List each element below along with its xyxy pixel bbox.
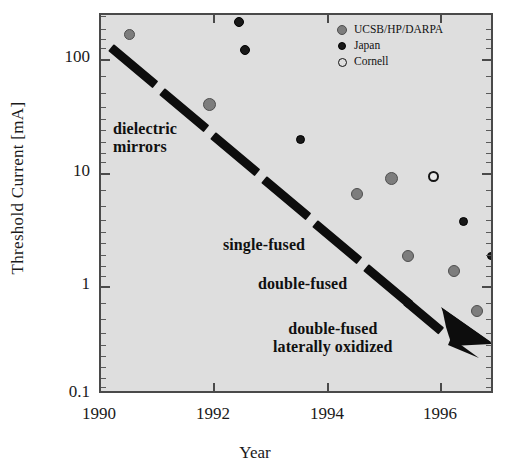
y-axis-tick-minor-right xyxy=(486,130,491,131)
y-axis-tick-minor-right xyxy=(486,119,491,120)
data-point-japan xyxy=(487,252,491,260)
y-axis-tick-minor xyxy=(101,255,106,256)
y-axis-tick-minor xyxy=(101,153,106,154)
y-axis-tick-minor xyxy=(101,319,106,320)
data-point-ucsb xyxy=(385,172,398,185)
y-axis-tick-minor xyxy=(101,93,106,94)
y-axis-tick-minor-right xyxy=(486,220,491,221)
x-axis-tick-1992 xyxy=(213,383,215,391)
trend-dash xyxy=(210,132,260,176)
y-axis-tick-minor-right xyxy=(486,232,491,233)
y-axis-tick-minor xyxy=(101,266,106,267)
y-tick-label-0-1: 0.1 xyxy=(10,382,90,402)
y-axis-tick-minor xyxy=(101,29,106,30)
y-axis-tick-minor-right xyxy=(486,356,491,357)
y-axis-tick-minor xyxy=(101,378,106,379)
x-axis-tick-1994 xyxy=(327,383,329,391)
y-axis-tick-minor xyxy=(101,333,106,334)
legend-entry-cornell: Cornell xyxy=(337,54,443,70)
y-axis-tick-minor-right xyxy=(486,206,491,207)
y-axis-tick-minor xyxy=(101,220,106,221)
y-axis-tick-minor xyxy=(101,206,106,207)
x-tick-label-1990: 1990 xyxy=(59,404,139,424)
y-axis-tick-minor-right xyxy=(486,266,491,267)
data-point-ucsb xyxy=(448,265,460,277)
y-axis-tick-minor-right xyxy=(486,378,491,379)
trend-dash xyxy=(261,176,311,220)
y-axis-tick-minor xyxy=(101,243,106,244)
legend-marker-open-circle-icon xyxy=(338,58,347,67)
y-axis-tick-major xyxy=(101,173,110,175)
legend-entry-japan: Japan xyxy=(337,38,443,54)
y-axis-tick-minor-right xyxy=(486,303,491,304)
y-axis-tick-major xyxy=(101,286,110,288)
data-point-japan xyxy=(459,217,468,226)
y-axis-tick-minor xyxy=(101,345,106,346)
y-axis-tick-minor-right xyxy=(486,153,491,154)
y-axis-tick-minor xyxy=(101,387,106,388)
x-axis-tick-1996 xyxy=(440,383,442,391)
y-axis-tick-minor xyxy=(101,76,106,77)
y-axis-tick-minor-right xyxy=(486,29,491,30)
y-axis-tick-minor-right xyxy=(486,387,491,388)
y-axis-tick-minor-right xyxy=(486,255,491,256)
y-axis-tick-minor-right xyxy=(486,48,491,49)
x-tick-label-1994: 1994 xyxy=(287,404,367,424)
annotation-dielectric-mirrors: dielectric mirrors xyxy=(113,120,177,156)
y-tick-label-1: 1 xyxy=(10,274,90,294)
annotation-single-fused: single-fused xyxy=(223,236,305,254)
plot-frame: dielectric mirrors single-fused double-f… xyxy=(99,13,493,393)
y-axis-tick-minor xyxy=(101,16,106,17)
data-point-ucsb xyxy=(402,250,414,262)
y-axis-tick-minor xyxy=(101,107,106,108)
y-axis-tick-major xyxy=(101,59,110,61)
data-point-japan xyxy=(240,45,250,55)
trend-dash xyxy=(403,298,444,334)
plot-area: dielectric mirrors single-fused double-f… xyxy=(101,15,491,391)
y-axis-tick-minor-right xyxy=(486,76,491,77)
y-axis-tick-minor-right xyxy=(486,39,491,40)
x-tick-label-1992: 1992 xyxy=(173,404,253,424)
y-axis-tick-minor-right xyxy=(486,367,491,368)
x-axis-tick-top-1996 xyxy=(440,15,442,23)
y-axis-tick-minor xyxy=(101,162,106,163)
y-axis-tick-minor xyxy=(101,130,106,131)
data-point-ucsb xyxy=(124,29,135,40)
y-axis-tick-major-right xyxy=(482,286,491,288)
y-axis-tick-minor-right xyxy=(486,142,491,143)
y-axis-tick-minor-right xyxy=(486,243,491,244)
annotation-double-fused-laterally-oxidized: double-fused laterally oxidized xyxy=(273,320,393,356)
legend-label-cornell: Cornell xyxy=(354,53,389,71)
y-axis-tick-minor-right xyxy=(486,162,491,163)
data-point-ucsb xyxy=(351,188,363,200)
x-tick-label-1996: 1996 xyxy=(400,404,480,424)
y-axis-tick-minor-right xyxy=(486,319,491,320)
data-point-japan xyxy=(296,135,305,144)
figure-threshold-current-vs-year: Threshold Current [mA] 100 10 1 0.1 1990… xyxy=(0,0,510,472)
y-tick-label-10: 10 xyxy=(10,161,90,181)
y-axis-tick-major-right xyxy=(482,59,491,61)
y-axis-tick-minor-right xyxy=(486,107,491,108)
legend: UCSB/HP/DARPA Japan Cornell xyxy=(337,22,443,70)
y-axis-tick-minor xyxy=(101,276,106,277)
y-axis-tick-major-right xyxy=(482,173,491,175)
y-axis-tick-minor xyxy=(101,356,106,357)
y-axis-tick-minor-right xyxy=(486,333,491,334)
data-point-cornell xyxy=(428,171,439,182)
y-axis-tick-minor xyxy=(101,39,106,40)
data-point-japan xyxy=(234,17,244,27)
x-axis-tick-top-1992 xyxy=(213,15,215,23)
data-point-ucsb xyxy=(203,98,216,111)
x-axis-label: Year xyxy=(0,443,510,463)
y-axis-tick-minor-right xyxy=(486,93,491,94)
y-axis-tick-minor xyxy=(101,367,106,368)
y-axis-tick-minor xyxy=(101,119,106,120)
y-tick-label-100: 100 xyxy=(10,47,90,67)
y-axis-tick-minor xyxy=(101,48,106,49)
y-axis-tick-minor xyxy=(101,142,106,143)
y-axis-tick-minor xyxy=(101,232,106,233)
legend-entry-ucsb: UCSB/HP/DARPA xyxy=(337,22,443,38)
x-axis-tick-top-1994 xyxy=(327,15,329,23)
y-axis-tick-minor-right xyxy=(486,276,491,277)
y-axis-tick-minor xyxy=(101,303,106,304)
